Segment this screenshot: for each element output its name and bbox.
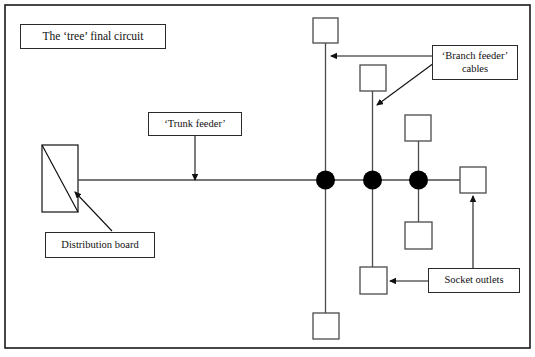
- distribution-board-label-box: Distribution board: [45, 232, 155, 258]
- trunk-feeder-label-box: ‘Trunk feeder’: [148, 112, 242, 136]
- junction-node-1: [316, 171, 335, 190]
- socket-outlet-top-2: [360, 65, 386, 91]
- branch-feeder-label-line-2: cables: [462, 63, 488, 75]
- diagram-title-text: The ‘tree’ final circuit: [43, 30, 144, 43]
- distribution-board-leader-arrow: [75, 192, 112, 231]
- socket-outlet-right-end: [460, 167, 486, 193]
- socket-outlet-bottom-1: [313, 313, 339, 339]
- socket-outlets-label-text: Socket outlets: [444, 274, 503, 286]
- socket-outlets-label-box: Socket outlets: [428, 268, 520, 293]
- junction-node-3: [409, 171, 428, 190]
- trunk-feeder-label-text: ‘Trunk feeder’: [164, 118, 226, 130]
- socket-outlet-bottom-3: [405, 222, 432, 249]
- branch-feeder-label-line-1: ‘Branch feeder’: [442, 50, 509, 62]
- circuit-diagram: The ‘tree’ final circuit ‘Trunk feeder’ …: [0, 0, 535, 357]
- junction-node-2: [363, 171, 382, 190]
- socket-outlet-top-1: [313, 18, 338, 43]
- socket-outlet-bottom-2: [360, 267, 387, 294]
- distribution-board-label-text: Distribution board: [61, 239, 138, 251]
- socket-outlet-top-3: [405, 115, 431, 141]
- branch-feeder-label-box: ‘Branch feeder’ cables: [432, 45, 518, 80]
- diagram-title-box: The ‘tree’ final circuit: [20, 24, 166, 49]
